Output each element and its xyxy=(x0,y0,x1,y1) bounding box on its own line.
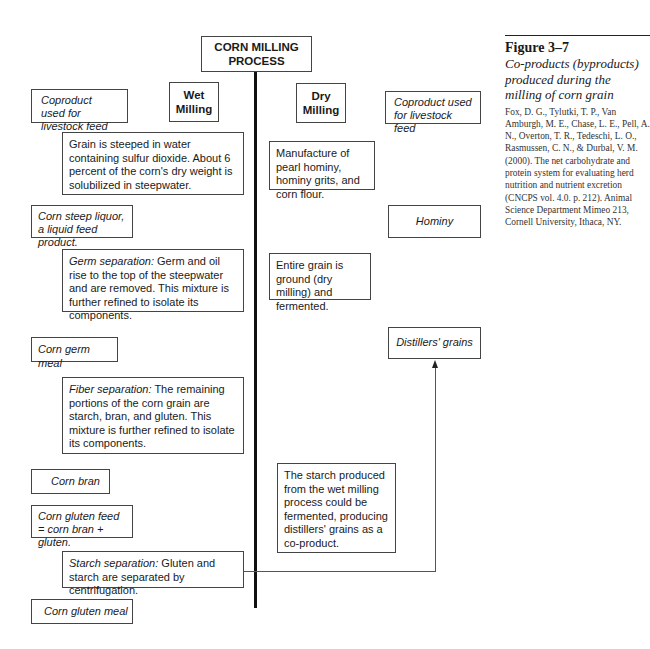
figure-title: Co-products (byproducts) produced during… xyxy=(505,56,650,103)
connector-vertical xyxy=(435,365,436,572)
wet-milling-heading: Wet Milling xyxy=(169,82,219,122)
coproduct-hominy: Hominy xyxy=(388,205,481,238)
title-text: CORN MILLING PROCESS xyxy=(212,40,302,68)
coproduct-corn-bran: Corn bran xyxy=(31,469,110,494)
figure-caption: Figure 3–7 Co-products (byproducts) prod… xyxy=(505,35,650,228)
coproduct-corn-gluten-meal: Corn gluten meal xyxy=(31,599,133,624)
wet-coproduct-label: Coproduct used for livestock feed xyxy=(31,89,128,123)
dry-step-grind-ferment: Entire grain is ground (dry milling) and… xyxy=(269,253,371,300)
wet-step-starch-separation: Starch separation: Gluten and starch are… xyxy=(62,551,244,588)
dry-milling-heading: Dry Milling xyxy=(296,83,346,123)
title-box: CORN MILLING PROCESS xyxy=(201,36,312,72)
coproduct-corn-gluten-feed: Corn gluten feed = corn bran + gluten. xyxy=(31,505,133,538)
dry-step-starch-fermentation: The starch produced from the wet milling… xyxy=(277,463,396,553)
dry-coproduct-label: Coproduct used for livestock feed xyxy=(385,91,481,124)
coproduct-distillers-grains: Distillers' grains xyxy=(388,327,481,359)
arrow-up-icon xyxy=(432,360,438,368)
wet-step-germ-separation: Germ separation: Germ and oil rise to th… xyxy=(62,249,244,312)
caption-rule xyxy=(505,35,650,36)
wet-step-steeping: Grain is steeped in water containing sul… xyxy=(62,132,244,195)
coproduct-corn-germ-meal: Corn germ meal xyxy=(31,337,118,362)
figure-citation: Fox, D. G., Tylutki, T. P., Van Amburgh,… xyxy=(505,106,650,229)
central-divider-line xyxy=(254,71,257,608)
coproduct-corn-steep-liquor: Corn steep liquor, a liquid feed product… xyxy=(31,205,133,238)
dry-step-hominy-manufacture: Manufacture of pearl hominy, hominy grit… xyxy=(269,141,375,190)
connector-horizontal xyxy=(244,571,436,572)
figure-number: Figure 3–7 xyxy=(505,40,650,56)
wet-step-fiber-separation: Fiber separation: The remaining portions… xyxy=(62,377,244,454)
